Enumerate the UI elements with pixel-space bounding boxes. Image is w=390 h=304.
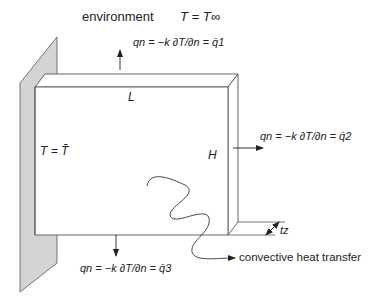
environment-temperature: T = T∞ [180,9,220,24]
thickness-label: tz [280,224,289,236]
convective-label: convective heat transfer [239,251,361,263]
environment-label: environment [82,9,154,24]
boundary-q2-equation: qn = −k ∂T/∂n = q̄2 [260,130,351,142]
boundary-q1-equation: qn = −k ∂T/∂n = q̄1 [133,36,224,48]
fixed-temperature-label: T = T̄ [40,144,68,158]
heat-transfer-diagram: environment T = T∞ qn = −k ∂T/∂n = q̄1 q… [0,0,390,304]
length-label: L [128,90,135,104]
height-label: H [208,148,217,162]
boundary-q3-equation: qn = −k ∂T/∂n = q̄3 [80,262,171,274]
